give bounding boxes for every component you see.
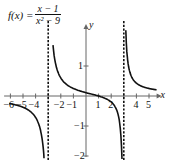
x-tick-label: −5 bbox=[16, 100, 27, 110]
y-tick-label: −2 bbox=[74, 151, 85, 161]
title-fraction: x − 1 x² − 9 bbox=[35, 3, 60, 26]
y-tick-label: 1 bbox=[78, 61, 83, 71]
x-tick-label: 2 bbox=[108, 100, 113, 110]
x-tick-label: 5 bbox=[146, 100, 151, 110]
title-lhs: f(x) = bbox=[8, 9, 33, 21]
y-tick-label: −1 bbox=[74, 121, 85, 131]
x-tick-label: −6 bbox=[3, 100, 14, 110]
x-tick-label: −2 bbox=[54, 100, 65, 110]
x-tick-label: −4 bbox=[29, 100, 40, 110]
x-tick-label: 4 bbox=[133, 100, 138, 110]
title-denominator: x² − 9 bbox=[36, 15, 60, 26]
x-tick-label: −1 bbox=[66, 100, 77, 110]
y-axis-label: y bbox=[89, 20, 93, 30]
x-axis-label: x bbox=[161, 90, 165, 100]
chart-title: f(x) = x − 1 x² − 9 bbox=[8, 3, 61, 26]
x-tick-label: 1 bbox=[96, 100, 101, 110]
function-curve bbox=[126, 30, 157, 90]
y-axis-arrow-icon bbox=[84, 24, 89, 29]
function-curve bbox=[9, 104, 44, 159]
title-numerator: x − 1 bbox=[35, 3, 60, 15]
